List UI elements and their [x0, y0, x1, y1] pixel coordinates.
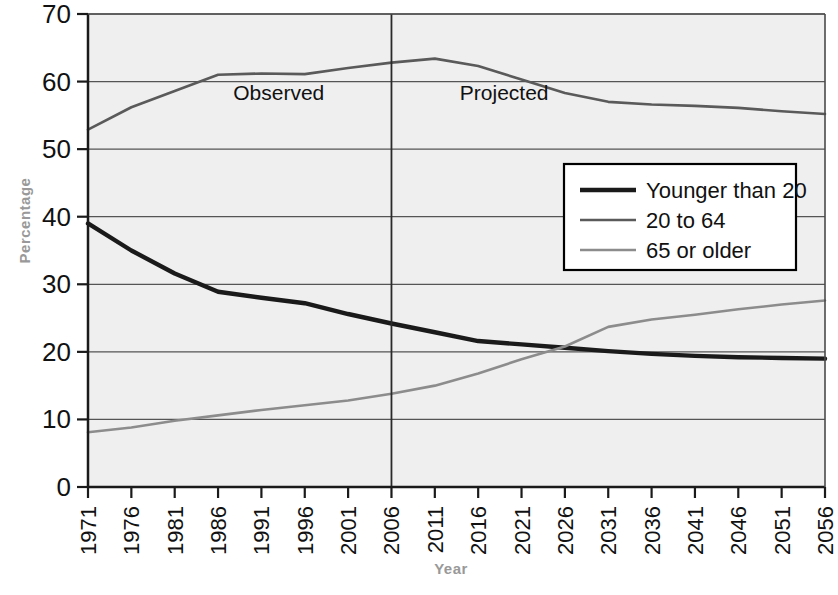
x-tick-label: 2036 — [640, 506, 665, 555]
y-axis-title: Percentage — [16, 161, 33, 281]
x-tick-label: 2041 — [683, 506, 708, 555]
x-axis-title-text: Year — [434, 560, 468, 577]
x-tick-label: 2016 — [466, 506, 491, 555]
plot-annotation-label: Projected — [460, 81, 549, 104]
x-tick-label: 2046 — [726, 506, 751, 555]
x-tick-label: 2056 — [813, 506, 838, 555]
y-axis-title-text: Percentage — [16, 178, 33, 264]
x-tick-label: 2051 — [770, 506, 795, 555]
legend-label: Younger than 20 — [646, 178, 807, 203]
x-tick-label: 1981 — [163, 506, 188, 555]
x-tick-label: 1976 — [119, 506, 144, 555]
x-tick-label: 1991 — [249, 506, 274, 555]
chart-figure: 010203040506070 197119761981198619911996… — [0, 0, 838, 595]
x-axis-title: Year — [396, 560, 506, 577]
y-tick-label: 0 — [57, 472, 71, 502]
legend-label: 20 to 64 — [646, 208, 726, 233]
y-tick-label: 60 — [42, 67, 71, 97]
x-tick-label: 2006 — [379, 506, 404, 555]
plot-annotation-label: Observed — [233, 81, 324, 104]
x-tick-label: 2011 — [423, 506, 448, 553]
y-tick-label: 50 — [42, 134, 71, 164]
x-tick-label: 2021 — [510, 506, 535, 555]
y-tick-label: 70 — [42, 0, 71, 29]
legend: Younger than 2020 to 6465 or older — [564, 164, 807, 270]
x-tick-label: 1986 — [206, 506, 231, 555]
legend-label: 65 or older — [646, 238, 751, 263]
y-tick-label: 20 — [42, 337, 71, 367]
y-tick-label: 30 — [42, 269, 71, 299]
y-tick-label: 40 — [42, 202, 71, 232]
y-axis-ticks: 010203040506070 — [42, 0, 88, 502]
x-tick-label: 1996 — [293, 506, 318, 555]
x-tick-label: 1971 — [76, 506, 101, 555]
x-tick-label: 2031 — [596, 506, 621, 555]
x-tick-label: 2001 — [336, 506, 361, 555]
x-axis-ticks: 1971197619811986199119962001200620112016… — [76, 487, 838, 555]
line-chart: 010203040506070 197119761981198619911996… — [0, 0, 838, 595]
y-tick-label: 10 — [42, 404, 71, 434]
x-tick-label: 2026 — [553, 506, 578, 555]
